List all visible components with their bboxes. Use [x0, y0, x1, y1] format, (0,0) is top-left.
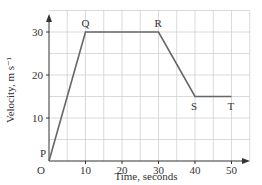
y-axis-arrow-icon: [46, 14, 52, 22]
y-tick-label: 10: [32, 112, 44, 124]
x-tick-label: 40: [190, 164, 202, 176]
point-label-q: Q: [82, 17, 90, 29]
point-label-r: R: [155, 17, 163, 29]
x-axis-arrow-icon: [242, 158, 250, 164]
point-label-p: P: [40, 147, 46, 159]
point-label-t: T: [228, 100, 235, 112]
y-tick-label: 20: [32, 69, 44, 81]
velocity-time-chart: 1020304050102030 PQRST O Time, seconds V…: [0, 0, 262, 185]
origin-label: O: [37, 164, 45, 176]
axes: [46, 14, 250, 164]
point-label-s: S: [191, 100, 197, 112]
tick-labels: 1020304050102030: [32, 26, 238, 176]
grid-lines: [49, 11, 250, 162]
y-tick-label: 30: [32, 26, 44, 38]
x-tick-label: 10: [80, 164, 92, 176]
x-tick-label: 50: [226, 164, 238, 176]
y-axis-label: Velocity, m s⁻¹: [4, 57, 16, 123]
x-axis-label: Time, seconds: [114, 170, 177, 182]
